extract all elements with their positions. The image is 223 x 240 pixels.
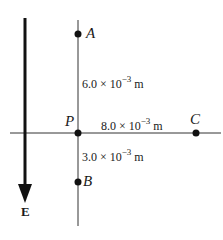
point-b-label: B [83,174,92,189]
point-a-dot [75,31,82,38]
point-c-label: C [190,112,200,127]
field-e-label: E [21,205,30,218]
point-p-label: P [65,114,74,129]
point-c-dot [193,130,200,137]
distance-pb-label: 3.0 × 10−3 m [82,149,144,163]
point-a-label: A [86,26,95,41]
field-arrow-head-icon [18,184,32,203]
distance-pc-label: 8.0 × 10−3 m [101,118,163,132]
point-p-dot [75,130,82,137]
distance-pa-label: 6.0 × 10−3 m [82,76,144,90]
point-b-dot [75,179,82,186]
